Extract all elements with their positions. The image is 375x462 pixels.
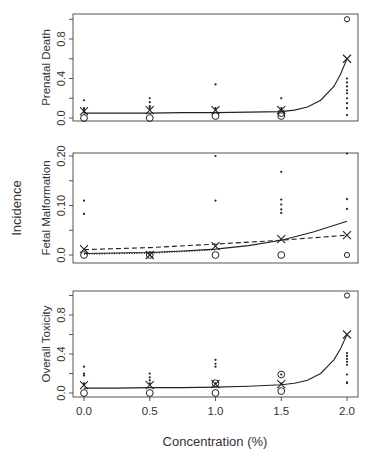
data-point-circle (146, 390, 153, 397)
data-point-dot (149, 372, 151, 374)
data-point-circle (344, 293, 349, 298)
data-point-dot (280, 198, 282, 200)
panel-overall-toxicity: 0.00.40.8Overall Toxicity (40, 291, 358, 401)
data-point-dot (346, 198, 348, 200)
data-point-dot (346, 208, 348, 210)
y-tick-label: 0.4 (55, 346, 67, 361)
data-point-circle (344, 252, 349, 257)
data-point-dot (83, 366, 85, 368)
x-tick-label: 1.0 (208, 405, 224, 417)
data-point-dot (214, 83, 216, 85)
data-point-dot (346, 355, 348, 357)
data-point-dot (346, 107, 348, 109)
data-point-dot (346, 358, 348, 360)
fitted-curve-solid (84, 59, 347, 113)
y-tick-label: 0.0 (55, 110, 67, 125)
data-point-dot (149, 379, 151, 381)
y-tick-label: 0.0 (55, 247, 67, 262)
y-tick-label: 0.0 (55, 385, 67, 400)
panel-prenatal-death: 0.00.40.8Prenatal Death (40, 14, 358, 126)
data-point-dot (280, 208, 282, 210)
plot-frame (73, 291, 358, 397)
data-point-dot (346, 361, 348, 363)
data-point-dot (149, 105, 151, 107)
data-point-dot (214, 359, 216, 361)
y-axis-label: Fetal Malformation (40, 160, 52, 255)
y-tick-label: 0.8 (55, 307, 67, 322)
data-point-circle (81, 252, 88, 259)
data-point-dot (346, 382, 348, 384)
shared-y-axis-label: Incidence (9, 180, 24, 236)
panels: 0.00.40.8Prenatal Death0.00.100.20Fetal … (40, 14, 358, 401)
x-tick-label: 0.0 (76, 405, 92, 417)
fitted-curve-solid (84, 221, 347, 253)
data-point-dot (83, 107, 85, 109)
data-point-dot (346, 102, 348, 104)
data-point-dot (149, 97, 151, 99)
data-point-circle (81, 390, 88, 397)
data-point-dot (83, 213, 85, 215)
y-tick-label: 0.10 (55, 195, 67, 216)
data-point-circle (344, 17, 349, 22)
x-tick-label: 1.5 (273, 405, 289, 417)
data-point-dot (346, 352, 348, 354)
data-point-circle (278, 388, 285, 395)
data-point-dot (280, 212, 282, 214)
plot-frame (73, 14, 358, 121)
data-point-dot (149, 376, 151, 378)
data-point-dot (346, 85, 348, 87)
y-axis-label: Overall Toxicity (40, 305, 52, 382)
data-point-dot (280, 203, 282, 205)
data-point-dot (280, 97, 282, 99)
panel-fetal-malformation: 0.00.100.20Fetal Malformation (40, 145, 358, 263)
data-point-dot (83, 372, 85, 374)
x-tick-label: 2.0 (339, 405, 355, 417)
mean-marker-x (343, 55, 351, 63)
data-point-dot (346, 364, 348, 366)
y-tick-label: 0.20 (55, 145, 67, 166)
data-point-dot (83, 99, 85, 101)
data-point-dot (214, 199, 216, 201)
data-point-circle (81, 115, 88, 122)
data-point-circle (212, 252, 219, 259)
data-point-circle (278, 252, 285, 259)
y-tick-label: 0.8 (55, 31, 67, 46)
data-point-dot (346, 373, 348, 375)
figure: 0.00.40.8Prenatal Death0.00.100.20Fetal … (0, 0, 375, 462)
data-point-dot (280, 171, 282, 173)
data-point-dot (346, 97, 348, 99)
x-axis-label: Concentration (%) (163, 434, 268, 449)
data-point-dot (346, 89, 348, 91)
data-point-circle (212, 113, 219, 120)
data-point-dot (149, 101, 151, 103)
y-axis-label: Prenatal Death (40, 29, 52, 106)
y-tick-label: 0.4 (55, 71, 67, 86)
data-point-dot (280, 373, 282, 375)
data-point-dot (346, 81, 348, 83)
data-point-dot (346, 114, 348, 116)
data-point-circle (212, 390, 219, 397)
data-point-dot (214, 363, 216, 365)
data-point-dot (214, 155, 216, 157)
data-point-dot (346, 92, 348, 94)
x-tick-label: 0.5 (142, 405, 158, 417)
data-point-circle (146, 115, 153, 122)
data-point-dot (346, 152, 348, 154)
data-point-dot (214, 366, 216, 368)
fitted-curve-dashed (84, 235, 347, 249)
x-axis-ticks: 0.00.51.01.52.0 (76, 405, 355, 417)
data-point-dot (346, 77, 348, 79)
data-point-dot (83, 199, 85, 201)
data-point-dot (83, 374, 85, 376)
